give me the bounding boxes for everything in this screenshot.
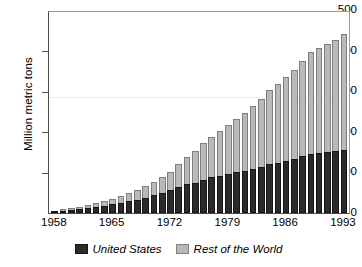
bar-1958 xyxy=(51,211,58,213)
bar-1973 xyxy=(175,164,182,213)
bar-1992 xyxy=(332,40,339,213)
bar-1959 xyxy=(60,209,67,213)
bar-segment-united-states xyxy=(118,203,125,213)
bar-segment-united-states xyxy=(151,195,158,213)
bar-1960 xyxy=(68,208,75,213)
legend-label-rest-of-the-world: Rest of the World xyxy=(194,243,283,255)
bar-segment-united-states xyxy=(332,151,339,213)
x-axis-tick-label: 1958 xyxy=(34,216,74,228)
bar-1985 xyxy=(275,84,282,213)
x-axis-tick-label: 1972 xyxy=(149,216,189,228)
bar-1982 xyxy=(250,106,257,213)
plot-area xyxy=(48,11,350,214)
bar-1993 xyxy=(341,34,348,213)
bar-1979 xyxy=(225,125,232,213)
bar-segment-united-states xyxy=(76,209,83,213)
bar-segment-united-states xyxy=(184,184,191,213)
bar-segment-united-states xyxy=(291,159,298,213)
legend-swatch-icon-united-states xyxy=(75,244,88,254)
bar-1988 xyxy=(299,61,306,213)
bar-1986 xyxy=(283,77,290,213)
bar-1968 xyxy=(134,190,141,213)
bar-segment-united-states xyxy=(324,152,331,213)
bar-1978 xyxy=(217,131,224,213)
bar-segment-united-states xyxy=(233,172,240,213)
chart-legend: United States Rest of the World xyxy=(0,243,357,255)
bar-segment-united-states xyxy=(341,150,348,213)
bar-segment-united-states xyxy=(175,187,182,213)
bar-segment-united-states xyxy=(250,169,257,213)
bar-1990 xyxy=(316,48,323,213)
bar-segment-united-states xyxy=(200,180,207,213)
bar-series-container xyxy=(49,12,349,213)
bar-segment-united-states xyxy=(51,211,58,213)
bar-1972 xyxy=(167,172,174,213)
bar-1970 xyxy=(151,182,158,213)
bar-1991 xyxy=(324,44,331,213)
bar-segment-united-states xyxy=(266,164,273,213)
legend-item-united-states: United States xyxy=(75,243,162,255)
bar-segment-united-states xyxy=(68,210,75,213)
bar-segment-united-states xyxy=(242,171,249,213)
bar-1962 xyxy=(85,205,92,213)
bar-1971 xyxy=(159,177,166,213)
y-axis-title: Million metric tons xyxy=(22,19,34,189)
legend-label-united-states: United States xyxy=(93,243,162,255)
bar-1961 xyxy=(76,207,83,213)
x-axis-tick-label: 1979 xyxy=(207,216,247,228)
bar-1980 xyxy=(233,119,240,213)
bar-1965 xyxy=(109,199,116,213)
bar-segment-united-states xyxy=(258,167,265,213)
bar-1989 xyxy=(308,52,315,213)
bar-1981 xyxy=(242,113,249,213)
bar-segment-united-states xyxy=(60,211,67,213)
legend-item-rest-of-the-world: Rest of the World xyxy=(176,243,283,255)
bar-segment-united-states xyxy=(308,154,315,213)
bar-segment-united-states xyxy=(109,204,116,213)
bar-1976 xyxy=(200,143,207,213)
bar-segment-united-states xyxy=(316,153,323,213)
bar-segment-united-states xyxy=(93,207,100,213)
bar-1974 xyxy=(184,157,191,213)
bar-1967 xyxy=(126,193,133,213)
bar-1966 xyxy=(118,196,125,213)
bar-segment-united-states xyxy=(101,206,108,213)
bar-1969 xyxy=(142,186,149,213)
bar-segment-united-states xyxy=(126,201,133,213)
x-axis-tick-label: 1965 xyxy=(92,216,132,228)
bar-1987 xyxy=(291,70,298,213)
bar-segment-united-states xyxy=(159,193,166,213)
bar-segment-united-states xyxy=(283,161,290,213)
bar-1975 xyxy=(192,151,199,213)
bar-segment-united-states xyxy=(167,190,174,213)
bar-segment-united-states xyxy=(134,200,141,213)
x-axis-tick-label: 1986 xyxy=(265,216,305,228)
x-axis-tick-label: 1993 xyxy=(323,216,362,228)
bar-segment-united-states xyxy=(208,177,215,213)
legend-swatch-icon-rest-of-the-world xyxy=(176,244,189,254)
bar-segment-united-states xyxy=(142,198,149,213)
bar-segment-united-states xyxy=(192,183,199,213)
bar-1977 xyxy=(208,137,215,213)
bar-1983 xyxy=(258,99,265,213)
bar-1964 xyxy=(101,201,108,213)
bar-segment-united-states xyxy=(225,174,232,213)
bar-1984 xyxy=(266,90,273,213)
bar-segment-united-states xyxy=(275,163,282,213)
bar-segment-united-states xyxy=(299,156,306,213)
bar-1963 xyxy=(93,203,100,213)
bar-segment-united-states xyxy=(217,176,224,213)
bar-segment-united-states xyxy=(85,208,92,213)
